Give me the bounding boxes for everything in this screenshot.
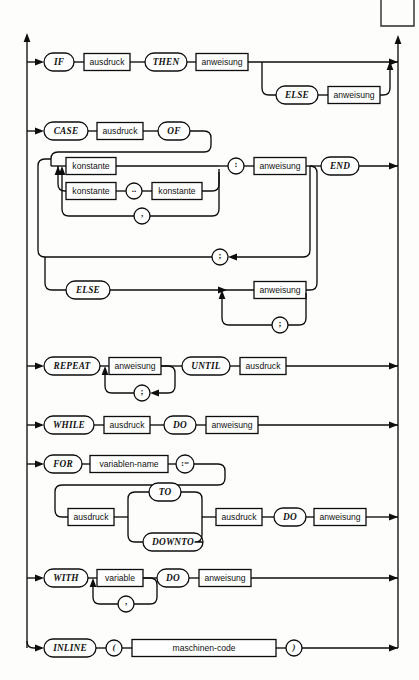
terminal-end-label: END <box>329 161 350 171</box>
nonterminal-variablen-name-label: variablen-name <box>99 459 158 469</box>
symbol-repeat-semicolon: ; <box>134 385 150 401</box>
terminal-while-do-label: DO <box>172 420 187 430</box>
railroad-diagram: IF ausdruck THEN anweisung ELSE <box>0 0 419 680</box>
nonterminal-ausdruck: ausdruck <box>84 54 130 71</box>
symbol-else-semicolon-label: ; <box>279 318 282 328</box>
terminal-repeat-label: REPEAT <box>53 361 91 371</box>
terminal-then: THEN <box>145 53 187 71</box>
symbol-semicolon-case-label: ; <box>219 250 222 260</box>
terminal-case-else: ELSE <box>66 281 110 299</box>
page-corner-box-fragment <box>381 0 414 26</box>
nonterminal-maschinen-code-label: maschinen-code <box>172 643 235 653</box>
terminal-with-do-label: DO <box>165 573 180 583</box>
nonterminal-for-anweisung-label: anweisung <box>319 512 360 522</box>
terminal-downto-label: DOWNTO <box>151 537 194 547</box>
nonterminal-while-anweisung-label: anweisung <box>211 420 252 430</box>
terminal-inline-label: INLINE <box>52 643 87 653</box>
nonterminal-variable-label: variable <box>105 573 135 583</box>
nonterminal-anweisung-label: anweisung <box>201 57 242 67</box>
nonterminal-konstante-3: konstante <box>152 183 202 200</box>
nonterminal-case-else-anweisung: anweisung <box>254 282 306 299</box>
nonterminal-variable: variable <box>97 570 143 587</box>
symbol-repeat-semicolon-label: ; <box>141 386 144 396</box>
terminal-if-label: IF <box>53 57 65 67</box>
nonterminal-case-anweisung: anweisung <box>254 158 306 175</box>
terminal-case-label: CASE <box>54 126 79 136</box>
symbol-with-comma: , <box>118 596 134 612</box>
nonterminal-while-ausdruck: ausdruck <box>104 417 150 434</box>
nonterminal-for-ausdruck-2: ausdruck <box>216 509 262 526</box>
nonterminal-while-ausdruck-label: ausdruck <box>110 420 146 430</box>
nonterminal-variablen-name: variablen-name <box>90 456 168 473</box>
symbol-comma-case: , <box>134 208 150 224</box>
terminal-else-label: ELSE <box>284 90 309 100</box>
terminal-until-label: UNTIL <box>191 361 221 371</box>
terminal-to: TO <box>149 483 181 501</box>
terminal-downto: DOWNTO <box>143 533 203 551</box>
exit-rail <box>395 35 402 648</box>
production-if-statement: IF ausdruck THEN anweisung ELSE <box>27 53 398 104</box>
terminal-for-do: DO <box>274 508 306 526</box>
terminal-with: WITH <box>44 569 88 587</box>
terminal-inline: INLINE <box>44 639 96 657</box>
terminal-while-do: DO <box>164 416 196 434</box>
terminal-while: WHILE <box>44 416 94 434</box>
production-while-statement: WHILE ausdruck DO anweisung <box>27 416 398 434</box>
nonterminal-while-anweisung: anweisung <box>206 417 258 434</box>
production-case-statement: CASE ausdruck OF konstante konstante <box>27 122 398 333</box>
symbol-range: .. <box>126 183 142 199</box>
nonterminal-konstante-2: konstante <box>66 183 116 200</box>
terminal-else: ELSE <box>276 86 318 104</box>
production-repeat-statement: REPEAT anweisung ; UNTIL ausdruck <box>27 357 398 401</box>
syntax-diagram-page: IF ausdruck THEN anweisung ELSE <box>0 0 419 680</box>
nonterminal-repeat-anweisung-label: anweisung <box>114 361 155 371</box>
nonterminal-anweisung: anweisung <box>196 54 248 71</box>
symbol-assign: := <box>176 455 194 473</box>
terminal-with-do: DO <box>157 569 189 587</box>
nonterminal-konstante-2-label: konstante <box>72 186 109 196</box>
symbol-rparen-label: ) <box>292 642 296 652</box>
nonterminal-repeat-ausdruck: ausdruck <box>240 358 286 375</box>
nonterminal-for-anweisung: anweisung <box>314 509 366 526</box>
symbol-range-label: .. <box>132 184 137 194</box>
nonterminal-with-anweisung-label: anweisung <box>204 573 245 583</box>
nonterminal-konstante-3-label: konstante <box>158 186 195 196</box>
nonterminal-case-ausdruck: ausdruck <box>97 123 143 140</box>
nonterminal-case-else-anweisung-label: anweisung <box>259 285 300 295</box>
symbol-comma-case-label: , <box>141 208 143 218</box>
nonterminal-repeat-anweisung: anweisung <box>109 358 161 375</box>
symbol-colon-label: : <box>235 159 238 169</box>
nonterminal-for-ausdruck-1-label: ausdruck <box>74 512 110 522</box>
terminal-until: UNTIL <box>182 357 230 375</box>
terminal-while-label: WHILE <box>53 420 85 430</box>
nonterminal-for-ausdruck-1: ausdruck <box>68 509 114 526</box>
terminal-to-label: TO <box>159 487 172 497</box>
nonterminal-else-anweisung: anweisung <box>328 87 380 104</box>
nonterminal-with-anweisung: anweisung <box>199 570 251 587</box>
production-inline-statement: INLINE ( maschinen-code ) <box>27 639 398 657</box>
nonterminal-else-anweisung-label: anweisung <box>333 90 374 100</box>
terminal-of-label: OF <box>167 126 181 136</box>
symbol-rparen: ) <box>286 640 302 656</box>
nonterminal-for-ausdruck-2-label: ausdruck <box>222 512 258 522</box>
terminal-of: OF <box>158 122 190 140</box>
nonterminal-ausdruck-label: ausdruck <box>90 57 126 67</box>
terminal-for-label: FOR <box>52 459 73 469</box>
nonterminal-repeat-ausdruck-label: ausdruck <box>246 361 282 371</box>
nonterminal-konstante-1-label: konstante <box>72 161 109 171</box>
terminal-for: FOR <box>44 455 82 473</box>
production-for-statement: FOR variablen-name := ausdruck TO <box>27 455 398 551</box>
terminal-repeat: REPEAT <box>44 357 100 375</box>
terminal-if: IF <box>44 53 74 71</box>
symbol-with-comma-label: , <box>125 596 127 606</box>
nonterminal-case-ausdruck-label: ausdruck <box>103 126 139 136</box>
symbol-else-semicolon: ; <box>272 317 288 333</box>
symbol-semicolon-case: ; <box>212 249 228 265</box>
terminal-for-do-label: DO <box>282 512 297 522</box>
nonterminal-konstante-1: konstante <box>66 158 116 175</box>
nonterminal-case-anweisung-label: anweisung <box>259 161 300 171</box>
terminal-with-label: WITH <box>53 573 79 583</box>
production-with-statement: WITH variable , DO anweisung <box>27 569 398 612</box>
terminal-case: CASE <box>44 122 88 140</box>
symbol-lparen: ( <box>106 640 122 656</box>
